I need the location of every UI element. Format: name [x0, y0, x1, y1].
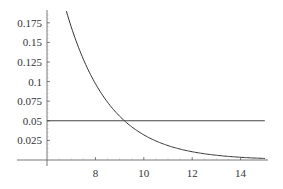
y-tick-label: 0.175 [17, 17, 42, 29]
axes: 81012140.0250.050.0750.10.1250.150.175 [17, 10, 268, 179]
decay-curve [66, 11, 264, 158]
y-tick-label: 0.075 [17, 95, 42, 107]
y-tick-label: 0.05 [23, 115, 43, 127]
x-tick-label: 10 [138, 167, 150, 179]
y-tick-label: 0.1 [28, 76, 42, 88]
x-tick-label: 12 [187, 167, 198, 179]
y-tick-label: 0.125 [17, 56, 42, 68]
x-tick-label: 8 [93, 167, 99, 179]
y-tick-label: 0.15 [23, 36, 43, 48]
chart-plot: 81012140.0250.050.0750.10.1250.150.175 [0, 0, 283, 189]
series-layer [47, 11, 265, 158]
x-tick-label: 14 [235, 167, 247, 179]
y-tick-label: 0.025 [17, 134, 42, 146]
